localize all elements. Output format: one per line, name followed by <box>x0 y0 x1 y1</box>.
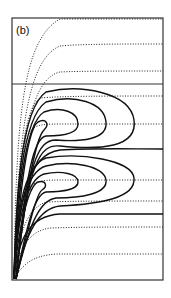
diagram-canvas: (b) <box>0 0 171 298</box>
panel-label: (b) <box>16 24 29 36</box>
